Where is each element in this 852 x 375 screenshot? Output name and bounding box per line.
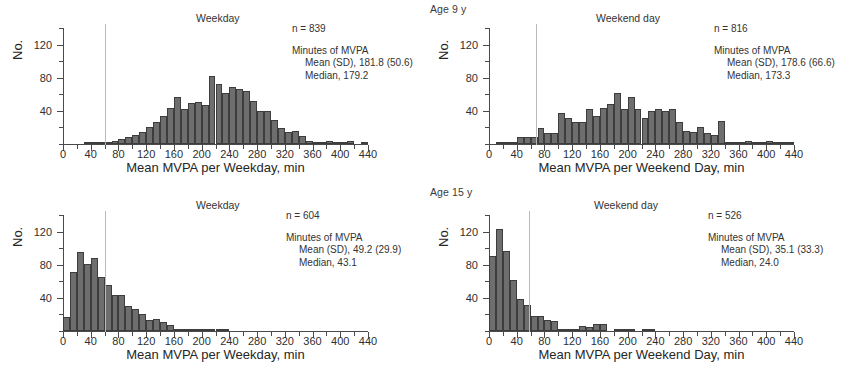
x-axis-tick-minor [752,145,753,149]
y-axis-tick-label: 40 [466,292,478,304]
x-axis-tick-minor [105,145,106,149]
histogram-bar [153,122,160,144]
x-axis-tick-label: 440 [785,148,803,160]
histogram-bar [125,306,132,331]
y-axis-tick-minor [485,215,489,216]
x-axis-tick-label: 440 [359,148,377,160]
x-axis-tick-label: 40 [85,335,97,347]
histogram-bar [202,329,209,331]
histogram-bar [732,142,739,144]
reference-line [536,24,537,145]
y-axis-title: No. [10,40,25,60]
x-axis-tick-label: 80 [538,335,550,347]
sample-size-label: n = 839 [292,24,413,35]
histogram-bar [174,329,181,331]
x-axis-tick-label: 160 [591,148,609,160]
histogram-bar [98,142,105,144]
histogram-bar [759,142,766,144]
stats-header: Minutes of MVPA [286,233,401,244]
histogram-bar [63,317,70,331]
histogram-bar [299,136,306,144]
y-axis-tick-major [57,232,63,233]
x-axis-tick-label: 0 [486,148,492,160]
histogram-bar [558,113,565,144]
histogram-bar [787,142,794,144]
histogram-bar [112,141,119,144]
histogram-bar [326,141,333,144]
histogram-bar [524,137,531,144]
x-axis-title: Mean MVPA per Weekday, min [63,160,368,175]
y-axis-tick-minor [59,314,63,315]
x-axis-tick-label: 0 [486,335,492,347]
y-axis-tick-major [483,45,489,46]
histogram-bar [780,142,787,144]
x-axis-tick-minor [216,145,217,149]
x-axis-tick-minor [642,145,643,149]
mvpa-histogram-figure: Age 9 y Age 15 y Weekday No. Mean MVPA p… [0,0,852,375]
x-axis-tick-label: 320 [276,148,294,160]
y-axis-tick-minor [59,144,63,145]
histogram-bar [361,142,368,144]
x-axis-tick-minor [77,145,78,149]
x-axis-tick-label: 360 [729,335,747,347]
stats-median: Median, 173.3 [714,71,835,82]
histogram-bar [676,122,683,144]
x-axis-tick-label: 200 [192,335,210,347]
histogram-bar [181,329,188,331]
histogram-bar [496,142,503,144]
histogram-bar [139,314,146,331]
x-axis-tick-label: 160 [165,335,183,347]
histogram-bar [146,320,153,331]
histogram-bar [313,142,320,144]
x-axis-tick-label: 120 [137,148,155,160]
x-axis-tick-label: 80 [538,148,550,160]
histogram-bar [146,127,153,144]
histogram-bar [160,322,167,331]
y-axis-tick-minor [485,28,489,29]
x-axis-tick-minor [160,332,161,336]
x-axis-tick-label: 280 [674,335,692,347]
x-axis-tick-label: 440 [359,335,377,347]
y-axis-tick-minor [485,281,489,282]
x-axis-tick-minor [132,145,133,149]
y-axis-tick-minor [59,281,63,282]
reference-line [529,211,530,332]
y-axis-tick-minor [485,127,489,128]
y-axis-tick-minor [485,331,489,332]
x-axis-tick-minor [271,332,272,336]
x-axis-tick-minor [160,145,161,149]
histogram-bar [752,142,759,144]
y-axis-tick-label: 120 [34,226,52,238]
x-axis-tick-minor [725,332,726,336]
histogram-bar [593,116,600,144]
stats-mean-sd: Mean (SD), 35.1 (33.3) [708,245,823,256]
x-axis-tick-label: 280 [248,148,266,160]
x-axis-tick-minor [780,145,781,149]
histogram-bar [773,142,780,144]
y-axis-tick-major [483,232,489,233]
x-axis-tick-label: 240 [220,148,238,160]
x-axis-tick-minor [558,332,559,336]
y-axis-tick-minor [59,127,63,128]
stats-block: n = 816 Minutes of MVPA Mean (SD), 178.6… [714,24,835,83]
y-axis-tick-major [483,298,489,299]
histogram-bar [551,133,558,144]
y-axis-tick-minor [59,215,63,216]
panel-age9-weekday: Weekday No. Mean MVPA per Weekday, min 0… [0,0,426,188]
x-axis-tick-label: 400 [757,148,775,160]
x-axis-tick-minor [299,332,300,336]
histogram-bar [174,97,181,144]
histogram-bar [139,132,146,144]
histogram-bar [222,93,229,144]
x-axis-tick-label: 240 [646,335,664,347]
histogram-bar [216,84,223,144]
histogram-bar [125,137,132,144]
y-axis-tick-minor [59,94,63,95]
histogram-bar [662,111,669,144]
histogram-bar [118,295,125,331]
histogram-bar [105,285,112,331]
x-axis-tick-minor [669,332,670,336]
histogram-bar [697,127,704,144]
x-axis-tick-label: 40 [85,148,97,160]
histogram-bar [503,251,510,331]
